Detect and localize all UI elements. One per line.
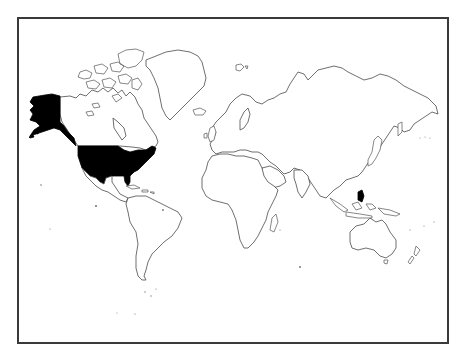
iceland <box>193 108 206 115</box>
philippines <box>358 190 364 202</box>
world-map <box>0 0 463 358</box>
indonesia <box>330 198 400 218</box>
svalbard <box>236 64 248 71</box>
south-america[interactable] <box>126 196 182 280</box>
tasmania <box>384 260 388 264</box>
madagascar <box>270 214 278 232</box>
new-zealand <box>408 246 420 264</box>
australia[interactable] <box>350 218 396 258</box>
british-isles <box>204 126 216 142</box>
caribbean-islands <box>126 185 154 194</box>
sakhalin <box>398 122 402 136</box>
